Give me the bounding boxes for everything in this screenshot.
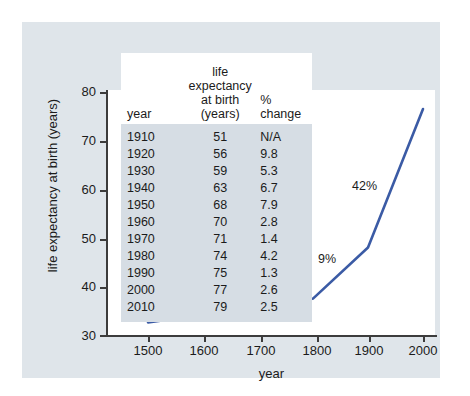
header-cell-year: year: [121, 65, 180, 124]
annotation-9pct: 9%: [318, 252, 336, 266]
cell-pct-change: 4.2: [260, 248, 312, 265]
header-le-line1: life expectancy: [189, 65, 252, 93]
cell-year: 1940: [121, 180, 180, 197]
cell-year: 1920: [121, 146, 180, 163]
cell-year: 1990: [121, 265, 180, 282]
cell-pct-change: 5.3: [260, 163, 312, 180]
table-row: 1920569.8: [121, 146, 312, 163]
cell-life-expectancy: 56: [180, 146, 260, 163]
table-row: 1990751.3: [121, 265, 312, 282]
cell-pct-change: 9.8: [260, 146, 312, 163]
cell-year: 1930: [121, 163, 180, 180]
cell-year: 1950: [121, 197, 180, 214]
table-body: 191051N/A1920569.81930595.31940636.71950…: [121, 124, 312, 322]
table-row: 1950687.9: [121, 197, 312, 214]
cell-pct-change: 1.4: [260, 231, 312, 248]
cell-year: 2000: [121, 282, 180, 299]
cell-pct-change: 7.9: [260, 197, 312, 214]
annotation-42pct: 42%: [352, 179, 377, 193]
header-cell-pct-change: % change: [260, 65, 312, 124]
cell-life-expectancy: 71: [180, 231, 260, 248]
cell-pct-change: 2.8: [260, 214, 312, 231]
table-row: 1930595.3: [121, 163, 312, 180]
life-expectancy-table: year life expectancy at birth (years) % …: [121, 53, 312, 322]
cell-pct-change: 6.7: [260, 180, 312, 197]
figure-page: 80 70 60 50 40 30 1500 1600 1700 1800 19…: [0, 0, 470, 396]
cell-pct-change: 2.5: [260, 299, 312, 316]
header-pct-text: % change: [260, 93, 301, 121]
cell-pct-change: N/A: [260, 129, 312, 146]
cell-life-expectancy: 77: [180, 282, 260, 299]
table-row: 1940636.7: [121, 180, 312, 197]
header-year-text: year: [127, 107, 151, 121]
table-row: 191051N/A: [121, 129, 312, 146]
cell-year: 1910: [121, 129, 180, 146]
cell-life-expectancy: 51: [180, 129, 260, 146]
table-header: year life expectancy at birth (years) % …: [121, 53, 312, 124]
header-le-line2: at birth (years): [201, 93, 240, 121]
cell-pct-change: 2.6: [260, 282, 312, 299]
table-row: 1970711.4: [121, 231, 312, 248]
cell-life-expectancy: 75: [180, 265, 260, 282]
table-row: 1980744.2: [121, 248, 312, 265]
cell-life-expectancy: 74: [180, 248, 260, 265]
cell-year: 2010: [121, 299, 180, 316]
table-header-row: year life expectancy at birth (years) % …: [121, 65, 312, 124]
cell-life-expectancy: 59: [180, 163, 260, 180]
cell-year: 1980: [121, 248, 180, 265]
cell-life-expectancy: 68: [180, 197, 260, 214]
data-table: year life expectancy at birth (years) % …: [121, 53, 312, 322]
cell-year: 1960: [121, 214, 180, 231]
table-row: 1960702.8: [121, 214, 312, 231]
table-row: 2000772.6: [121, 282, 312, 299]
cell-life-expectancy: 63: [180, 180, 260, 197]
cell-life-expectancy: 70: [180, 214, 260, 231]
cell-life-expectancy: 79: [180, 299, 260, 316]
cell-year: 1970: [121, 231, 180, 248]
table-header-spacer: [121, 53, 312, 65]
figure-panel: 80 70 60 50 40 30 1500 1600 1700 1800 19…: [22, 22, 440, 378]
cell-pct-change: 1.3: [260, 265, 312, 282]
table-row: 2010792.5: [121, 299, 312, 316]
table-row-spacer: [121, 316, 312, 322]
header-cell-life-expectancy: life expectancy at birth (years): [180, 65, 260, 124]
